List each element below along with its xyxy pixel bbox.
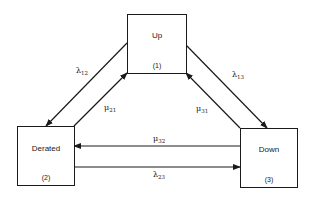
arrow-mu-21 [74, 73, 127, 126]
rate-label-mu-32: μ32 [153, 134, 165, 144]
state-down-number: (3) [241, 176, 297, 183]
rate-label-lambda-12: λ12 [76, 66, 88, 76]
state-derated-box: Derated (2) [17, 126, 75, 186]
state-derated-label: Derated [18, 144, 74, 153]
arrow-lambda-13 [186, 45, 267, 128]
state-up-number: (1) [128, 62, 186, 69]
state-up-box: Up (1) [127, 14, 187, 74]
rate-label-mu-31: μ31 [196, 104, 208, 114]
rate-label-lambda-23: λ23 [153, 170, 165, 180]
state-down-box: Down (3) [240, 128, 298, 188]
state-up-label: Up [128, 31, 186, 40]
state-derated-number: (2) [18, 174, 74, 181]
arrow-mu-31 [186, 73, 240, 128]
rate-label-mu-21: μ21 [104, 103, 116, 113]
rate-label-lambda-13: λ13 [232, 70, 244, 80]
state-down-label: Down [241, 145, 297, 154]
